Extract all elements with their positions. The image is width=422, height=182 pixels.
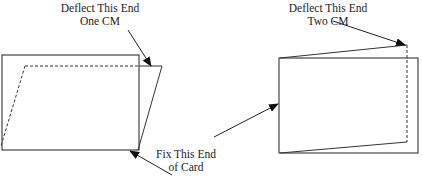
right-card-deflected-bottom [280,142,407,153]
fix-end-label-line1: Fix This End [130,148,242,161]
fix-arrow-right [214,104,278,137]
left-card-deflected-right [138,66,162,150]
left-card-deflected-left-dashed [1,66,25,146]
left-card-original [2,55,139,150]
fix-end-label: Fix This End of Card [130,148,242,174]
right-deflect-label: Deflect This End Two CM [268,2,388,28]
left-deflect-label-line2: One CM [35,15,165,28]
right-deflect-label-line1: Deflect This End [268,2,388,15]
right-card-figure [214,21,418,153]
fix-end-label-line2: of Card [130,161,242,174]
right-card-original [279,58,418,153]
right-deflect-label-line2: Two CM [268,15,388,28]
left-deflect-label-line1: Deflect This End [35,2,165,15]
right-card-deflected-top [280,45,407,58]
left-deflect-label: Deflect This End One CM [35,2,165,28]
